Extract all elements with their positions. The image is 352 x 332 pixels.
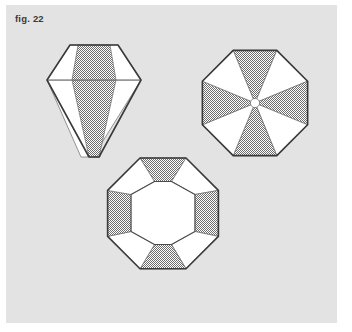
figure-caption: fig. 22 bbox=[15, 13, 44, 25]
figure-illustration: fig. 22 bbox=[0, 0, 352, 332]
step-facet-w bbox=[108, 190, 132, 236]
diagram-brilliant-cut-profile bbox=[47, 45, 141, 157]
table-octagon-facet bbox=[131, 182, 195, 245]
crown-center-facet bbox=[72, 45, 116, 80]
step-facet-e bbox=[195, 190, 219, 236]
culet-circle-icon bbox=[250, 98, 259, 107]
diagram-octagon-step-cut bbox=[108, 158, 219, 269]
diagram-octagon-star-top-view bbox=[202, 50, 307, 155]
gem-cut-diagrams bbox=[0, 0, 352, 332]
